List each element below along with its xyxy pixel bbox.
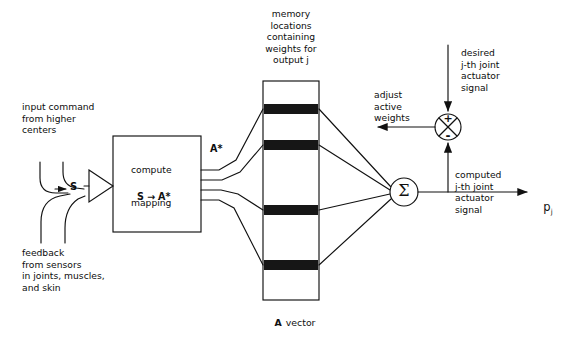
a-star-fan-lines (201, 109, 263, 265)
computed-signal-label: computed j-th joint actuator signal (455, 169, 501, 215)
weight-output-lines (319, 109, 391, 265)
s-symbol-label: S (70, 181, 77, 193)
s-funnel-triangle (89, 170, 113, 202)
desired-signal-label: desired j-th joint actuator signal (461, 47, 500, 93)
memory-bands (264, 104, 318, 270)
output-p-symbol: p (543, 200, 550, 214)
adjust-active-weights-label: adjust active weights (374, 89, 410, 124)
output-p-subscript: j (551, 208, 553, 216)
output-p-label: pj (536, 186, 553, 216)
feedback-label: feedback from sensors in joints, muscles… (22, 247, 105, 293)
sigma-symbol-label: Σ (390, 182, 418, 200)
input-command-label: input command from higher centers (22, 101, 94, 136)
a-vector-word: vector (282, 317, 316, 328)
a-vector-caption: Avector (257, 306, 327, 328)
input-command-leads (40, 162, 84, 193)
a-star-label: A* (210, 143, 222, 155)
feedback-leads (41, 194, 85, 243)
a-vector-symbol: A (274, 317, 281, 328)
summing-junction-plus-sign: + (438, 112, 458, 125)
memory-caption-label: memory locations containing weights for … (241, 8, 341, 66)
summing-junction-minus-sign: - (438, 129, 458, 143)
compute-label-line3: mapping (131, 197, 171, 209)
compute-label-line1: compute (131, 164, 172, 176)
